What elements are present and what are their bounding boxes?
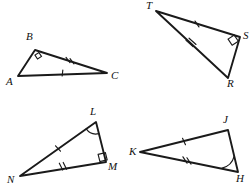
vertex-label-b: B [26,31,33,42]
vertex-label-n: N [7,174,14,185]
vertex-label-k: K [129,146,136,157]
vertex-label-t: T [146,0,152,11]
vertex-label-s: S [243,30,249,41]
right-angle-mark-b [35,52,42,59]
triangle-nlm-outline [20,122,106,176]
vertex-label-a: A [6,76,13,87]
triangle-tsr [156,11,240,78]
right-angle-mark-m [98,153,107,162]
triangle-nlm [20,122,107,176]
tick-mark-ac-1 [62,70,63,76]
angle-arc-h [222,156,234,168]
triangle-abc [18,50,107,76]
vertex-label-j: J [223,114,228,125]
triangle-tsr-outline [156,11,240,78]
vertex-label-m: M [108,161,117,172]
vertex-label-c: C [111,70,118,81]
geometry-canvas [0,0,250,191]
triangle-kjh-outline [140,130,238,172]
vertex-label-h: H [236,173,244,184]
triangle-kjh [140,130,238,172]
geometry-figure: A B C T S R N L M K J H [0,0,250,191]
vertex-label-l: L [90,106,96,117]
vertex-label-r: R [227,78,234,89]
